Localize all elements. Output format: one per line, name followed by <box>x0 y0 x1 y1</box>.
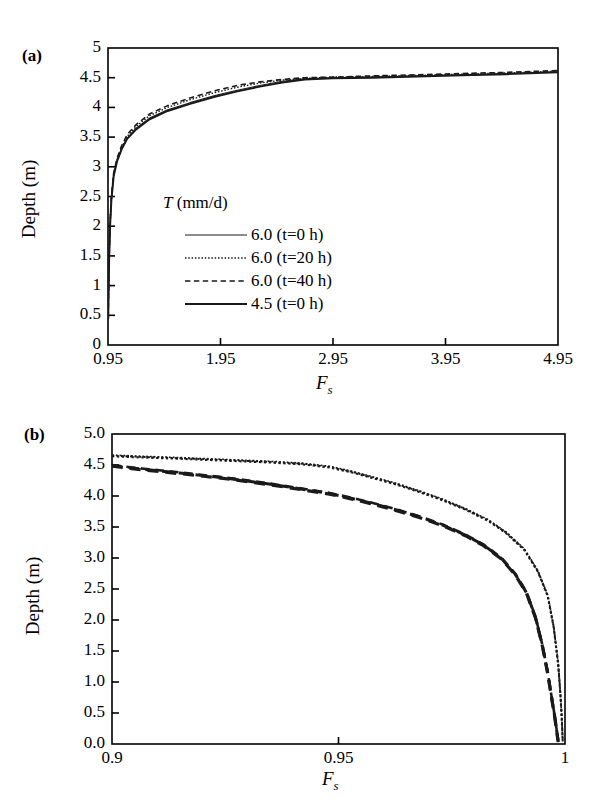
panel-a-y-tick-label: 1 <box>93 275 102 295</box>
panel-b-y-tick-label: 5.0 <box>84 423 105 443</box>
legend-item: 6.0 (t=0 h) <box>185 223 332 246</box>
legend-item-label: 6.0 (t=0 h) <box>251 226 323 243</box>
series-line <box>112 456 563 742</box>
legend-item-label: 6.0 (t=20 h) <box>251 249 332 266</box>
legend-item-label: 4.5 (t=0 h) <box>251 295 323 312</box>
series-line <box>112 465 558 741</box>
panel-b-y-tick-label: 4.5 <box>84 454 105 474</box>
legend-item: 6.0 (t=20 h) <box>185 246 332 269</box>
legend-item: 4.5 (t=0 h) <box>185 292 332 315</box>
panel-b-y-tick-label: 3.0 <box>84 547 105 567</box>
panel-a-y-tick-label: 3 <box>93 156 102 176</box>
panel-a-legend-title: T (mm/d) <box>163 193 332 213</box>
figure-container: (a) Depth (m) Fs T (mm/d) 6.0 (t=0 h)6.0… <box>0 0 595 803</box>
panel-b-y-tick-label: 1.0 <box>84 671 105 691</box>
series-line <box>112 466 558 742</box>
legend-item-label: 6.0 (t=40 h) <box>251 272 332 289</box>
series-line <box>112 456 563 742</box>
legend-line-swatch <box>185 274 247 288</box>
legend-item: 6.0 (t=40 h) <box>185 269 332 292</box>
legend-line-swatch <box>185 228 247 242</box>
panel-a-y-tick-label: 0.5 <box>80 304 101 324</box>
panel-b: (b) Depth (m) Fs T (mm/d) 6.0 (t=20 h)6.… <box>0 400 595 803</box>
panel-b-x-tick-label: 0.9 <box>72 748 152 768</box>
panel-a-x-tick-label: 2.95 <box>293 349 373 369</box>
panel-a-y-tick-label: 1.5 <box>80 245 101 265</box>
series-line <box>112 455 563 741</box>
panel-b-y-tick-label: 0.5 <box>84 702 105 722</box>
panel-a-y-tick-label: 2.5 <box>80 186 101 206</box>
panel-b-x-tick-label: 0.95 <box>299 748 379 768</box>
panel-a-y-tick-label: 5 <box>93 37 102 57</box>
legend-line-swatch <box>185 251 247 265</box>
panel-a-legend: T (mm/d) 6.0 (t=0 h)6.0 (t=20 h)6.0 (t=4… <box>163 193 332 315</box>
panel-a: (a) Depth (m) Fs T (mm/d) 6.0 (t=0 h)6.0… <box>0 0 595 400</box>
panel-a-y-tick-label: 2 <box>93 215 102 235</box>
panel-a-y-tick-label: 4 <box>93 96 102 116</box>
panel-a-x-tick-label: 3.95 <box>406 349 486 369</box>
panel-a-y-tick-label: 3.5 <box>80 126 101 146</box>
panel-a-x-tick-label: 4.95 <box>518 349 595 369</box>
panel-a-x-tick-label: 0.95 <box>68 349 148 369</box>
legend-line-swatch <box>185 297 247 311</box>
panel-b-y-tick-label: 4.0 <box>84 485 105 505</box>
panel-a-legend-rows: 6.0 (t=0 h)6.0 (t=20 h)6.0 (t=40 h)4.5 (… <box>185 223 332 315</box>
panel-b-x-tick-label: 1 <box>525 748 595 768</box>
series-line <box>112 466 558 742</box>
panel-b-y-tick-label: 3.5 <box>84 516 105 536</box>
panel-b-y-tick-label: 2.5 <box>84 578 105 598</box>
panel-a-y-tick-label: 4.5 <box>80 67 101 87</box>
panel-a-x-tick-label: 1.95 <box>181 349 261 369</box>
panel-b-y-tick-label: 2.0 <box>84 609 105 629</box>
panel-b-y-tick-label: 1.5 <box>84 640 105 660</box>
